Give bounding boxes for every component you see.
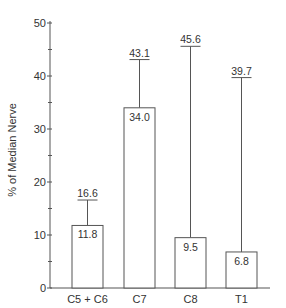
x-category-label: C8 — [183, 293, 197, 305]
bars: 16.611.8C5 + C643.134.0C745.69.5C839.76.… — [67, 33, 257, 305]
bar-value-label: 34.0 — [129, 111, 150, 123]
bar-group: 16.611.8C5 + C6 — [67, 187, 108, 305]
x-category-label: T1 — [235, 293, 248, 305]
bar — [124, 108, 155, 288]
y-ticks: 01020304050 — [34, 17, 52, 294]
x-category-label: C7 — [132, 293, 146, 305]
error-value-label: 43.1 — [129, 47, 150, 59]
y-tick-label: 10 — [34, 229, 46, 241]
y-axis-label: % of Median Nerve — [6, 103, 18, 197]
x-category-label: C5 + C6 — [67, 293, 108, 305]
bar-group: 39.76.8T1 — [226, 65, 257, 305]
bar-group: 45.69.5C8 — [175, 33, 206, 305]
y-tick-label: 20 — [34, 176, 46, 188]
error-value-label: 16.6 — [77, 187, 98, 199]
bar-value-label: 11.8 — [78, 228, 98, 240]
error-value-label: 39.7 — [231, 65, 252, 77]
bar-value-label: 9.5 — [183, 241, 198, 253]
y-tick-label: 0 — [40, 282, 46, 294]
error-value-label: 45.6 — [180, 33, 201, 45]
y-tick-label: 50 — [34, 17, 46, 29]
bar-group: 43.134.0C7 — [124, 47, 155, 305]
bar-chart: 01020304050 16.611.8C5 + C643.134.0C745.… — [0, 0, 286, 308]
y-tick-label: 30 — [34, 123, 46, 135]
bar-value-label: 6.8 — [234, 255, 249, 267]
y-tick-label: 40 — [34, 70, 46, 82]
